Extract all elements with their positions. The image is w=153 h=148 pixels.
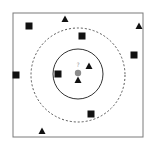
triangle-point [75, 77, 82, 84]
square-point [131, 52, 138, 59]
triangle-point [39, 128, 46, 135]
square-point [88, 111, 95, 118]
knn-diagram: ? [0, 0, 153, 148]
square-point [13, 72, 20, 79]
query-label: ? [76, 61, 79, 68]
triangle-point [136, 23, 143, 30]
square-point [79, 33, 86, 40]
query-point [75, 70, 81, 76]
triangle-point [62, 16, 69, 23]
triangle-point [86, 63, 93, 70]
square-point [26, 23, 33, 30]
square-point [55, 71, 62, 78]
